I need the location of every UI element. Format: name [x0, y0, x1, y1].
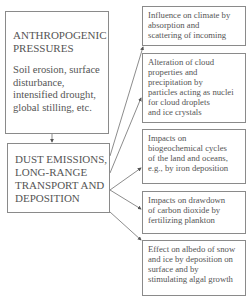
arrow-to-effect-5	[110, 212, 141, 240]
source-body-line: disturbance,	[13, 77, 100, 90]
effect-box-climate: Influence on climate by absorption and s…	[142, 6, 246, 46]
anthropogenic-pressures-box: ANTHROPOGENIC PRESSURES Soil erosion, su…	[5, 11, 109, 134]
center-line: DEPOSITION	[15, 192, 107, 205]
effect-line: stimulating algal growth	[148, 274, 235, 284]
source-body: Soil erosion, surface disturbance, inten…	[13, 64, 100, 114]
effect-line: for cloud droplets	[148, 97, 234, 107]
effect-line: Alteration of cloud	[148, 57, 234, 67]
effect-line: Impacts on drawdown	[148, 195, 225, 205]
effect-line: and ice by deposition on	[148, 254, 235, 264]
effect-line: Effect on albedo of snow	[148, 244, 235, 254]
center-line: LONG-RANGE	[15, 166, 107, 179]
effect-line: properties and	[148, 67, 234, 77]
arrow-to-effect-3	[110, 168, 141, 190]
effect-line: absorption and	[148, 20, 230, 30]
effect-box-biogeochemical: Impacts on biogeochemical cycles of the …	[142, 129, 246, 184]
arrow-to-effect-4	[110, 190, 141, 209]
effect-line: e.g., by iron deposition	[148, 163, 228, 173]
effect-line: and ice crystals	[148, 107, 234, 117]
effect-line: surface and by	[148, 264, 235, 274]
effect-line: precipitation by	[148, 77, 234, 87]
effect-line: fertilizing plankton	[148, 215, 225, 225]
effect-line: Impacts on	[148, 133, 228, 143]
effect-text: Impacts on biogeochemical cycles of the …	[148, 133, 228, 173]
source-body-line: global stilling, etc.	[13, 102, 100, 115]
effect-text: Impacts on drawdown of carbon dioxide by…	[148, 195, 225, 225]
source-title-line: ANTHROPOGENIC	[13, 29, 107, 42]
effect-line: biogeochemical cycles	[148, 143, 228, 153]
effect-text: Influence on climate by absorption and s…	[148, 10, 230, 40]
effect-box-albedo: Effect on albedo of snow and ice by depo…	[142, 240, 246, 296]
arrow-to-effect-1	[110, 47, 143, 156]
effect-box-carbon: Impacts on drawdown of carbon dioxide by…	[142, 191, 246, 234]
dust-emissions-box: DUST EMISSIONS, LONG-RANGE TRANSPORT AND…	[7, 143, 110, 213]
center-line: DUST EMISSIONS,	[15, 153, 107, 166]
source-body-line: Soil erosion, surface	[13, 64, 100, 77]
effect-line: scattering of incoming	[148, 30, 230, 40]
arrow-to-effect-2	[110, 98, 141, 173]
source-title-line: PRESSURES	[13, 42, 107, 55]
effect-text: Alteration of cloud properties and preci…	[148, 57, 234, 118]
effect-line: particles acting as nuclei	[148, 87, 234, 97]
center-line: TRANSPORT AND	[15, 179, 107, 192]
effect-line: of carbon dioxide by	[148, 205, 225, 215]
source-body-line: intensified drought,	[13, 89, 100, 102]
effect-text: Effect on albedo of snow and ice by depo…	[148, 244, 235, 284]
center-title: DUST EMISSIONS, LONG-RANGE TRANSPORT AND…	[15, 153, 107, 205]
effect-box-cloud: Alteration of cloud properties and preci…	[142, 53, 246, 123]
effect-line: Influence on climate by	[148, 10, 230, 20]
effect-line: of the land and oceans,	[148, 153, 228, 163]
source-title: ANTHROPOGENIC PRESSURES	[13, 29, 107, 55]
